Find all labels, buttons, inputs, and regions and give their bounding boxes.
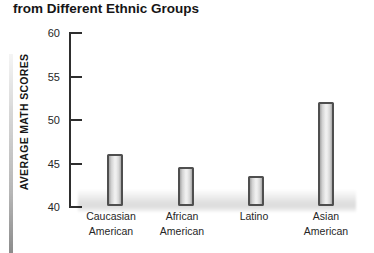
- x-label-line: Asian: [281, 209, 371, 224]
- bar-latino: [248, 176, 264, 206]
- x-label-line: American: [137, 224, 227, 239]
- y-tick-label: 45: [28, 157, 60, 171]
- bar-caucasian-american: [107, 154, 123, 206]
- y-tick-mark: [69, 76, 82, 78]
- chart-title: from Different Ethnic Groups: [13, 1, 199, 16]
- y-tick-mark: [69, 119, 82, 121]
- y-tick-mark: [69, 163, 82, 165]
- y-tick-mark: [69, 32, 82, 34]
- chart-panel: from Different Ethnic Groups AVERAGE MAT…: [0, 0, 374, 253]
- bar-african-american: [178, 167, 194, 206]
- bar-asian-american: [318, 102, 334, 206]
- x-label-asian-american: AsianAmerican: [281, 209, 371, 239]
- y-tick-label: 40: [28, 200, 60, 214]
- page-gutter-shadow: [9, 54, 13, 253]
- y-tick-label: 50: [28, 113, 60, 127]
- y-tick-label: 60: [28, 26, 60, 40]
- y-tick-label: 55: [28, 70, 60, 84]
- x-label-line: American: [281, 224, 371, 239]
